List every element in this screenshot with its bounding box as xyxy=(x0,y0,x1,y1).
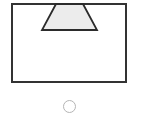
answer-option-figure xyxy=(0,0,141,90)
option-radio-button[interactable] xyxy=(63,100,76,113)
